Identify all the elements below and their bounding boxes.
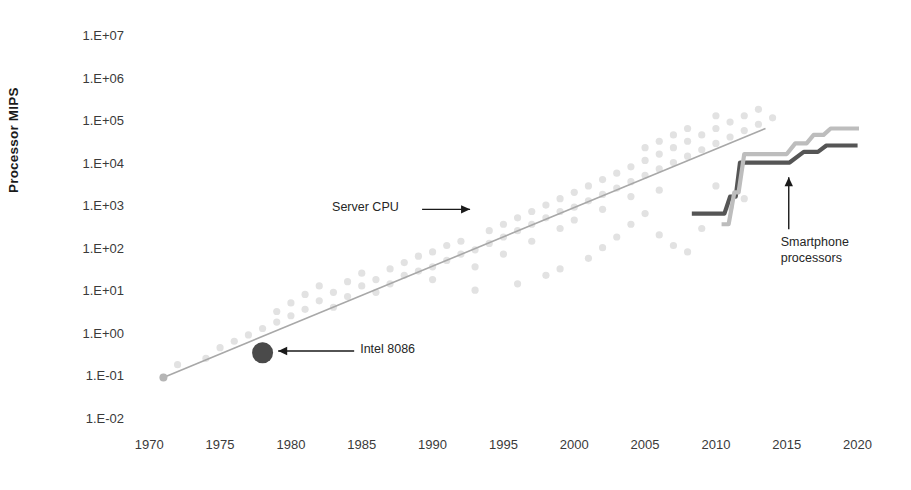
scatter-point [599, 206, 606, 213]
scatter-point [670, 242, 677, 249]
scatter-point [656, 231, 663, 238]
scatter-point [698, 225, 705, 232]
scatter-point [500, 221, 507, 228]
scatter-point [216, 344, 223, 351]
scatter-point [684, 125, 691, 132]
scatter-point [741, 127, 748, 134]
scatter-point [471, 263, 478, 270]
scatter-point [231, 338, 238, 345]
scatter-point [627, 163, 634, 170]
scatter-point [599, 244, 606, 251]
scatter-point [471, 287, 478, 294]
scatter-point [712, 182, 719, 189]
scatter-point [741, 112, 748, 119]
scatter-point [698, 131, 705, 138]
scatter-point [429, 276, 436, 283]
scatter-point [273, 319, 280, 326]
scatter-point [741, 195, 748, 202]
scatter-point [571, 216, 578, 223]
scatter-point [514, 280, 521, 287]
scatter-point [401, 259, 408, 266]
annotation-server-cpu: Server CPU [332, 200, 399, 216]
scatter-point [613, 170, 620, 177]
scatter-point [712, 125, 719, 132]
scatter-point [670, 144, 677, 151]
server-cpu-arrow [422, 205, 470, 213]
scatter-point [301, 306, 308, 313]
scatter-point [316, 282, 323, 289]
scatter-point [684, 138, 691, 145]
scatter-point [415, 253, 422, 260]
scatter-point [514, 214, 521, 221]
scatter-point [358, 282, 365, 289]
scatter-point [712, 140, 719, 147]
trend-line-series [163, 128, 765, 377]
intel-8086-arrow [278, 347, 354, 355]
scatter-point [726, 119, 733, 126]
scatter-point [486, 227, 493, 234]
step-line-series [722, 128, 859, 224]
scatter-point [726, 133, 733, 140]
scatter-point [670, 131, 677, 138]
scatter-point [500, 250, 507, 257]
chart-container: Processor MIPS 1.E+071.E+061.E+051.E+041… [0, 0, 911, 490]
scatter-point [301, 291, 308, 298]
scatter-point [627, 193, 634, 200]
scatter-point [344, 293, 351, 300]
scatter-point [259, 325, 266, 332]
scatter-point [542, 201, 549, 208]
scatter-point [429, 248, 436, 255]
scatter-point [344, 278, 351, 285]
scatter-point [457, 238, 464, 245]
scatter-point [174, 361, 181, 368]
scatter-point [316, 297, 323, 304]
scatter-point [656, 150, 663, 157]
scatter-point [443, 242, 450, 249]
plot-area [0, 0, 911, 490]
scatter-point [330, 289, 337, 296]
scatter-point [528, 238, 535, 245]
scatter-point [641, 157, 648, 164]
scatter-point [613, 233, 620, 240]
trend-line-start-marker [159, 373, 167, 381]
scatter-point [585, 182, 592, 189]
scatter-point [755, 121, 762, 128]
scatter-point [245, 331, 252, 338]
scatter-point [556, 195, 563, 202]
scatter-point [372, 276, 379, 283]
scatter-point [656, 187, 663, 194]
scatter-point [287, 312, 294, 319]
annotation-smartphone-processors: Smartphone processors [781, 235, 885, 266]
scatter-point [684, 248, 691, 255]
scatter-point [542, 272, 549, 279]
scatter-point [556, 265, 563, 272]
intel-8086-marker [252, 342, 273, 363]
scatter-point [641, 144, 648, 151]
scatter-point [627, 221, 634, 228]
scatter-point [386, 265, 393, 272]
scatter-point [656, 138, 663, 145]
scatter-point [556, 225, 563, 232]
scatter-point [585, 255, 592, 262]
scatter-point [528, 208, 535, 215]
scatter-point [641, 210, 648, 217]
scatter-point [769, 114, 776, 121]
scatter-point [698, 146, 705, 153]
annotation-intel-8086: Intel 8086 [360, 342, 415, 358]
scatter-point [712, 112, 719, 119]
scatter-point [358, 270, 365, 277]
scatter-point [684, 153, 691, 160]
scatter-point [287, 299, 294, 306]
scatter-points-layer [160, 106, 776, 381]
smartphone-processors-arrow [785, 177, 793, 229]
scatter-point [571, 189, 578, 196]
scatter-point [273, 308, 280, 315]
scatter-point [755, 106, 762, 113]
scatter-point [599, 176, 606, 183]
